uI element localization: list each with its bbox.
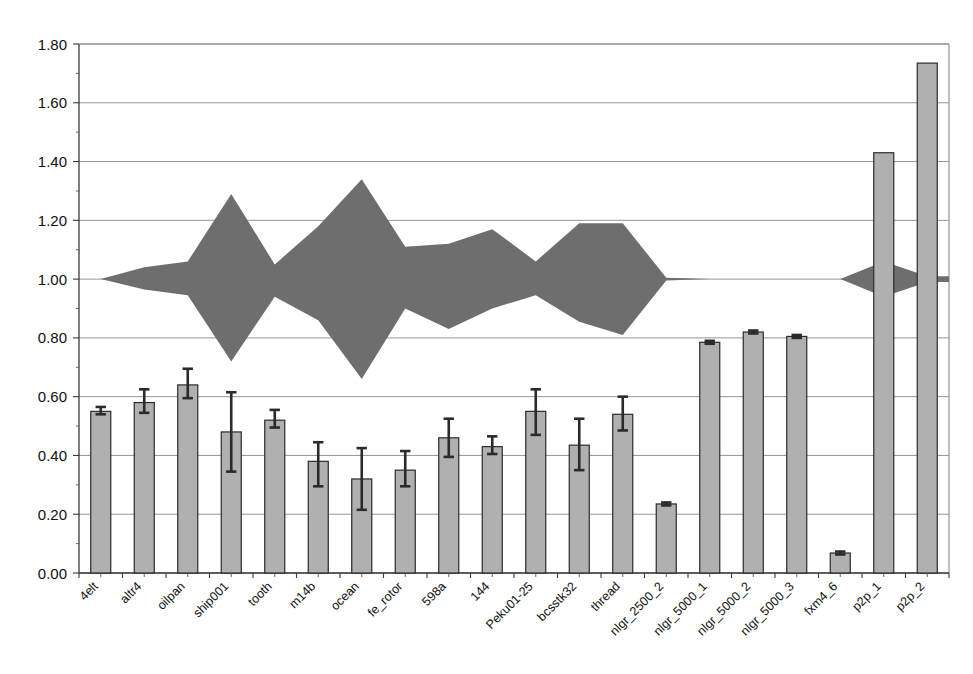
x-axis-labels: 4eltaltr4oilpanship001toothm14boceanfe_r… bbox=[77, 579, 928, 638]
x-axis-tick-label: oilpan bbox=[154, 579, 188, 613]
bar bbox=[613, 414, 633, 573]
x-axis-tick-label: thread bbox=[588, 579, 623, 614]
x-axis-tick-label: Peku01-25 bbox=[483, 579, 536, 632]
y-axis-tick-label: 0.80 bbox=[38, 329, 67, 346]
bar-chart-with-band: 0.000.200.400.600.801.001.201.401.601.80… bbox=[0, 0, 973, 674]
x-axis-tick-label: tooth bbox=[245, 579, 275, 609]
x-axis-tick-label: ship001 bbox=[191, 579, 232, 620]
bar bbox=[874, 153, 894, 573]
bar bbox=[787, 336, 807, 573]
x-axis-tick-label: bcsstk32 bbox=[535, 579, 580, 624]
bar bbox=[700, 342, 720, 573]
x-axis-tick-label: 4elt bbox=[77, 579, 102, 604]
bar bbox=[178, 385, 198, 573]
y-axis-tick-label: 0.40 bbox=[38, 447, 67, 464]
y-axis-tick-label: 0.00 bbox=[38, 565, 67, 582]
error-bars-group bbox=[96, 331, 846, 555]
x-axis-tick-label: altr4 bbox=[117, 579, 144, 606]
x-axis-tick-label: ocean bbox=[328, 579, 362, 613]
bar bbox=[830, 553, 850, 573]
bar bbox=[134, 403, 154, 573]
x-axis-tick-label: fxm4_6 bbox=[801, 579, 840, 618]
x-axis-tick-label: p2p_2 bbox=[893, 579, 928, 614]
y-axis-tick-label: 1.40 bbox=[38, 153, 67, 170]
x-axis-tick-label: 144 bbox=[468, 579, 493, 604]
bar bbox=[917, 63, 937, 573]
x-axis-tick-label: p2p_1 bbox=[849, 579, 884, 614]
y-axis-tick-label: 0.60 bbox=[38, 388, 67, 405]
x-axis-tick-label: fe_rotor bbox=[365, 579, 405, 619]
bar bbox=[91, 411, 111, 573]
y-axis-labels: 0.000.200.400.600.801.001.201.401.601.80 bbox=[38, 36, 67, 582]
x-axis-tick-label: 598a bbox=[419, 579, 449, 609]
y-axis-tick-label: 1.60 bbox=[38, 94, 67, 111]
y-axis-tick-label: 0.20 bbox=[38, 506, 67, 523]
y-axis-tick-label: 1.20 bbox=[38, 212, 67, 229]
y-axis-tick-label: 1.80 bbox=[38, 36, 67, 53]
bar bbox=[482, 447, 502, 573]
bar bbox=[265, 420, 285, 573]
chart-container: 0.000.200.400.600.801.001.201.401.601.80… bbox=[0, 0, 973, 674]
bar bbox=[656, 504, 676, 573]
bar bbox=[743, 332, 763, 573]
y-axis-tick-label: 1.00 bbox=[38, 271, 67, 288]
x-axis-tick-label: m14b bbox=[286, 579, 318, 611]
